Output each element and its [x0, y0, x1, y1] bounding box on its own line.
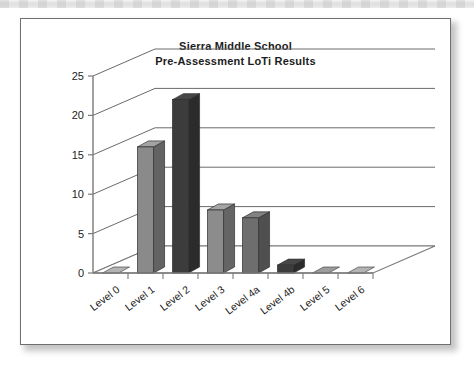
x-axis-category-label: Level 2	[157, 283, 191, 313]
x-axis-category-label: Level 1	[122, 283, 156, 313]
bar-level-2	[172, 94, 199, 273]
chart-card: Sierra Middle School Pre-Assessment LoTi…	[20, 18, 451, 345]
y-axis-group: 0510152025	[72, 70, 93, 279]
bar-level-1	[137, 141, 164, 273]
x-axis-category-label: Level 4a	[223, 283, 262, 317]
x-axis-category-label: Level 3	[192, 283, 226, 313]
y-axis-tick-label: 25	[72, 70, 84, 82]
x-axis-category-label: Level 4b	[258, 283, 297, 317]
x-axis-group: Level 0Level 1Level 2Level 3Level 4aLeve…	[87, 273, 373, 316]
bar-chart-svg: 0510152025 Level 0Level 1Level 2Level 3L…	[21, 19, 452, 346]
y-axis-tick-label: 5	[78, 228, 84, 240]
x-axis-category-label: Level 0	[87, 283, 121, 313]
y-axis-tick-label: 15	[72, 149, 84, 161]
x-axis-category-label: Level 5	[297, 283, 331, 313]
x-axis-category-label: Level 6	[332, 283, 366, 313]
y-axis-tick-label: 20	[72, 109, 84, 121]
y-axis-tick-label: 10	[72, 188, 84, 200]
chart-plot-area: 0510152025 Level 0Level 1Level 2Level 3L…	[21, 19, 452, 346]
y-axis-tick-label: 0	[78, 267, 84, 279]
bar-level-4a	[242, 212, 269, 273]
bar-level-3	[207, 204, 234, 273]
scan-artifact-band	[0, 0, 474, 8]
